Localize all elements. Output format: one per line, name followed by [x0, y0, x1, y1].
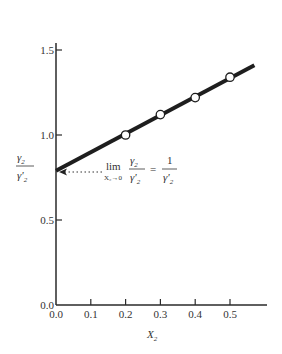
data-point-marker [226, 73, 234, 81]
x-ticks: 0.00.10.20.30.40.5 [49, 299, 237, 320]
annotation-rhs-num: 1 [167, 154, 173, 166]
y-label-denominator: γ'2 [17, 169, 28, 184]
annotation-frac-den: γ'2 [130, 171, 141, 186]
y-ticks: 0.00.51.01.5 [40, 44, 62, 311]
plot-series [56, 65, 254, 170]
data-point-marker [191, 93, 199, 101]
chart-canvas: 0.00.51.01.5 0.00.10.20.30.40.5 γ2 γ'2 X… [0, 0, 282, 354]
data-point-marker [156, 110, 164, 118]
y-axis-label: γ2 γ'2 [16, 151, 34, 184]
data-point-marker [121, 131, 129, 139]
x-tick-label: 0.5 [223, 308, 237, 320]
annotation-equals: = [150, 163, 156, 175]
fitted-line [56, 65, 254, 170]
annotation-frac-num: γ2 [130, 154, 138, 169]
y-tick-label: 0.5 [40, 214, 54, 226]
x-tick-label: 0.4 [188, 308, 202, 320]
x-axis-label: X2 [146, 328, 158, 343]
x-tick-label: 0.3 [154, 308, 168, 320]
x-tick-label: 0.0 [49, 308, 63, 320]
annotation-lim: lim [106, 160, 121, 172]
x-tick-label: 0.2 [119, 308, 133, 320]
annotation-rhs-den: γ'2 [163, 171, 174, 186]
y-label-numerator: γ2 [17, 151, 25, 166]
y-tick-label: 1.5 [40, 44, 54, 56]
y-tick-label: 1.0 [40, 129, 54, 141]
annotation-lim-subscript: X₂→0 [104, 174, 122, 182]
x-tick-label: 0.1 [84, 308, 98, 320]
